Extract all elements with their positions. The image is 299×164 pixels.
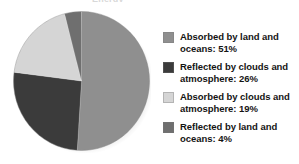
legend-item-label: Absorbed by land and oceans: 51% (180, 31, 296, 54)
legend-item-absorbed-land-oceans[interactable]: Absorbed by land and oceans: 51% (163, 31, 297, 54)
legend-item-label: Absorbed by clouds and atmosphere: 19% (180, 91, 296, 114)
pie-chart-graphic (12, 9, 151, 153)
pie-slices (14, 11, 150, 150)
legend-item-reflected-clouds-atmosphere[interactable]: Reflected by clouds and atmosphere: 26% (163, 61, 297, 84)
cropped-title-remnant: Energy (92, 0, 182, 2)
legend-item-reflected-land-oceans[interactable]: Reflected by land and oceans: 4% (163, 121, 297, 144)
pie-slice[interactable] (14, 72, 82, 150)
legend-swatch-icon (163, 32, 174, 43)
legend-item-absorbed-clouds-atmosphere[interactable]: Absorbed by clouds and atmosphere: 19% (163, 91, 297, 114)
pie-slice[interactable] (77, 11, 149, 150)
legend-item-label: Reflected by land and oceans: 4% (180, 121, 296, 144)
legend-swatch-icon (163, 92, 174, 103)
legend: Absorbed by land and oceans: 51% Reflect… (163, 31, 297, 144)
legend-swatch-icon (163, 62, 174, 73)
pie-svg (12, 9, 151, 153)
legend-swatch-icon (163, 122, 174, 133)
pie-chart-figure: Energy Absorbed by land and oceans: 51% … (0, 0, 299, 164)
legend-item-label: Reflected by clouds and atmosphere: 26% (180, 61, 296, 84)
